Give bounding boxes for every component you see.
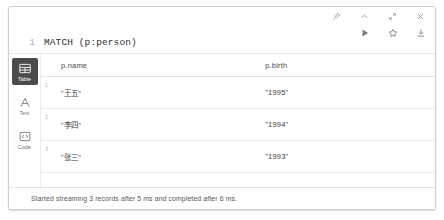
- download-icon[interactable]: [414, 26, 427, 39]
- editor-window-controls: [330, 10, 427, 23]
- view-item-label: Code: [18, 144, 31, 150]
- line-text: MATCH (p:person): [44, 37, 137, 50]
- query-editor[interactable]: 1 MATCH (p:person) 2 RETURN p.name, p.bi…: [9, 7, 435, 54]
- table-row[interactable]: 3 "张三" "1993": [41, 141, 435, 173]
- text-icon: [19, 96, 31, 109]
- table-row[interactable]: 1 "王五" "1995": [41, 77, 435, 109]
- table-row[interactable]: 2 "李四" "1994": [41, 109, 435, 141]
- expand-icon[interactable]: [386, 10, 399, 23]
- table-icon: [19, 62, 31, 75]
- code-line: 1 MATCH (p:person): [21, 37, 172, 50]
- table-cell-name: 1 "王五": [41, 77, 245, 109]
- column-header-name[interactable]: p.name: [41, 54, 245, 77]
- row-index: 1: [45, 82, 48, 88]
- status-bar: Started streaming 3 records after 5 ms a…: [9, 187, 435, 209]
- editor-action-controls: [358, 26, 427, 39]
- cell-value: "王五": [61, 89, 81, 98]
- chevron-up-icon[interactable]: [358, 10, 371, 23]
- cell-value: "1995": [265, 88, 288, 97]
- table-body: 1 "王五" "1995" 2 "李四" "1994": [41, 77, 435, 173]
- cell-value: "李四": [61, 121, 81, 130]
- view-item-label: Table: [18, 76, 31, 82]
- table-header-row: p.name p.birth: [41, 54, 435, 77]
- view-item-code[interactable]: Code: [12, 126, 38, 153]
- run-icon[interactable]: [358, 26, 371, 39]
- status-message: Started streaming 3 records after 5 ms a…: [31, 195, 237, 202]
- cell-value: "1993": [265, 152, 288, 161]
- table-cell-name: 2 "李四": [41, 109, 245, 141]
- star-icon[interactable]: [386, 26, 399, 39]
- row-index: 3: [45, 146, 48, 152]
- line-number: 1: [21, 37, 35, 50]
- table-cell-birth: "1993": [245, 141, 435, 173]
- code-icon: [19, 130, 31, 143]
- cell-value: "张三": [61, 153, 81, 162]
- table-cell-name: 3 "张三": [41, 141, 245, 173]
- table-head: p.name p.birth: [41, 54, 435, 77]
- row-index: 2: [45, 114, 48, 120]
- table-cell-birth: "1995": [245, 77, 435, 109]
- close-icon[interactable]: [414, 10, 427, 23]
- cell-value: "1994": [265, 120, 288, 129]
- query-result-card: 1 MATCH (p:person) 2 RETURN p.name, p.bi…: [8, 6, 436, 210]
- pin-icon[interactable]: [330, 10, 343, 23]
- view-item-text[interactable]: Text: [12, 92, 38, 119]
- column-header-birth[interactable]: p.birth: [245, 54, 435, 77]
- view-item-table[interactable]: Table: [12, 58, 38, 85]
- view-item-label: Text: [19, 110, 29, 116]
- results-table: p.name p.birth 1 "王五" "1995": [41, 54, 435, 173]
- table-cell-birth: "1994": [245, 109, 435, 141]
